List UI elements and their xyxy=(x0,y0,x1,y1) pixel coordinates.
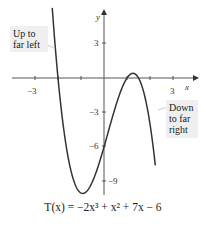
y-tick-label-neg3: −3 xyxy=(89,107,99,117)
right-callout-line3: right xyxy=(169,124,188,135)
left-callout-line2: far left xyxy=(13,39,40,50)
x-axis-label: x xyxy=(184,82,189,92)
y-tick-label-neg6: −6 xyxy=(89,141,99,151)
function-caption: T(x) = −2x³ + x² + 7x − 6 xyxy=(0,201,206,213)
right-callout-line2: to far xyxy=(169,113,191,124)
function-graph: −3 3 x y 3 −3 −6 −9 Up to far left Down … xyxy=(0,0,206,200)
y-tick-label-neg9: −9 xyxy=(108,176,118,186)
x-tick-label-3: 3 xyxy=(170,86,175,96)
y-axis-label: y xyxy=(95,12,100,22)
right-callout-line1: Down xyxy=(169,102,193,113)
y-tick-label-3: 3 xyxy=(94,38,99,48)
left-callout-line1: Up to xyxy=(13,28,36,39)
x-tick-label-neg3: −3 xyxy=(27,86,37,96)
